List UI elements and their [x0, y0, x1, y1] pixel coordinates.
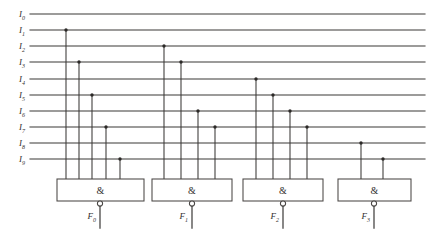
output-label-F2: F2 — [270, 211, 280, 222]
junction-dot-0-I9 — [118, 157, 121, 160]
junction-dot-3-I9 — [381, 157, 384, 160]
input-label-I2: I2 — [18, 41, 25, 52]
and-gate-symbol-0: & — [97, 185, 105, 196]
junction-dot-2-I6 — [288, 109, 291, 112]
and-gate-symbol-3: & — [371, 185, 379, 196]
junction-dot-1-I7 — [213, 125, 216, 128]
junction-dot-3-I8 — [359, 141, 362, 144]
output-label-F3: F3 — [361, 211, 371, 222]
and-gate-3: &F3 — [338, 141, 411, 228]
input-label-I9: I9 — [18, 154, 25, 165]
input-label-I8: I8 — [18, 138, 25, 149]
junction-dot-0-I1 — [64, 28, 67, 31]
junction-dot-0-I3 — [77, 60, 80, 63]
input-label-I7: I7 — [18, 122, 26, 133]
junction-dot-0-I7 — [104, 125, 107, 128]
and-gate-2: &F2 — [243, 77, 323, 228]
and-gate-symbol-1: & — [188, 185, 196, 196]
junction-dot-1-I2 — [162, 44, 165, 47]
input-label-I5: I5 — [18, 90, 25, 101]
input-label-I1: I1 — [18, 25, 25, 36]
junction-dot-0-I5 — [90, 93, 93, 96]
junction-dot-2-I5 — [271, 93, 274, 96]
inversion-bubble-0 — [97, 201, 102, 206]
output-label-F1: F1 — [179, 211, 189, 222]
circuit-canvas: I0I1I2I3I4I5I6I7I8I9&F0&F1&F2&F3 — [0, 0, 433, 249]
junction-dot-2-I7 — [305, 125, 308, 128]
and-gate-0: &F0 — [57, 28, 144, 228]
output-label-F0: F0 — [87, 211, 97, 222]
input-label-I0: I0 — [18, 9, 25, 20]
input-label-I6: I6 — [18, 106, 25, 117]
junction-dot-1-I6 — [196, 109, 199, 112]
encoder-circuit-diagram: I0I1I2I3I4I5I6I7I8I9&F0&F1&F2&F3 — [0, 0, 433, 249]
inversion-bubble-1 — [189, 201, 194, 206]
junction-dot-2-I4 — [254, 77, 257, 80]
and-gate-symbol-2: & — [279, 185, 287, 196]
input-label-I4: I4 — [18, 74, 25, 85]
junction-dot-1-I3 — [179, 60, 182, 63]
inversion-bubble-2 — [280, 201, 285, 206]
input-label-I3: I3 — [18, 57, 25, 68]
inversion-bubble-3 — [371, 201, 376, 206]
and-gate-1: &F1 — [152, 44, 232, 228]
